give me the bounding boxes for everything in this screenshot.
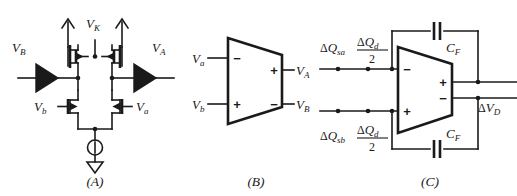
label-delta-qsb: ΔQsb	[320, 128, 346, 145]
label-va-gate: Va	[136, 99, 149, 116]
bottom-input-line	[320, 109, 398, 114]
label-vb-output-b: VB	[296, 97, 310, 114]
label-cf-bottom: CF	[446, 126, 461, 143]
input-sign-plus-c: +	[403, 104, 411, 119]
label-cf-top: CF	[446, 40, 461, 57]
label-vb-gate: Vb	[34, 99, 47, 116]
label-va-output: VA	[152, 40, 166, 57]
buffer-triangle-right	[134, 64, 174, 92]
fraction-delta-qd-over-2-bottom: ΔQd 2	[357, 122, 388, 154]
input-sign-minus: −	[233, 51, 241, 66]
nmos-transistor-left	[58, 90, 78, 129]
caption-a: (A)	[86, 174, 104, 189]
figure-container: VK VB VA	[0, 0, 517, 196]
fraction-denominator-top: 2	[369, 52, 375, 66]
supply-rail-left	[62, 19, 74, 47]
buffer-triangle-left	[18, 64, 58, 92]
amplifier-body-c	[398, 47, 452, 133]
output-sign-plus: +	[270, 63, 278, 78]
panel-b-amplifier-symbol: − Va + Vb + VA − VB (B)	[190, 0, 320, 196]
label-va-input: Va	[192, 51, 205, 68]
vk-gate-node	[93, 40, 98, 59]
supply-rail-right	[116, 19, 128, 47]
fraction-numerator-bottom: ΔQd	[357, 122, 379, 139]
output-sign-plus-c: +	[439, 75, 447, 90]
input-sign-plus: +	[233, 97, 241, 112]
pmos-transistor-right	[102, 45, 122, 78]
output-sign-minus-c: −	[439, 91, 447, 106]
label-delta-vd: ΔVD	[478, 100, 501, 117]
label-va-output-b: VA	[296, 63, 310, 80]
label-delta-qsa: ΔQsa	[320, 40, 346, 57]
pmos-transistor-left	[68, 45, 88, 78]
fraction-delta-qd-over-2-top: ΔQd 2	[357, 34, 388, 66]
caption-c: (C)	[421, 174, 440, 189]
panel-c-charge-amplifier: − + CF	[320, 0, 517, 196]
caption-b: (B)	[247, 174, 265, 189]
nmos-transistor-right	[112, 90, 132, 129]
right-output-node	[110, 76, 134, 81]
top-input-line	[320, 67, 398, 72]
input-sign-minus-c: −	[403, 62, 411, 77]
output-sign-minus: −	[270, 97, 278, 112]
left-output-node	[58, 76, 80, 81]
label-vb-input-b: Vb	[192, 97, 205, 114]
label-vb-input: VB	[12, 40, 26, 57]
fraction-numerator-top: ΔQd	[357, 34, 379, 51]
ground-symbol	[87, 162, 103, 173]
fraction-denominator-bottom: 2	[369, 140, 375, 154]
label-vk: VK	[86, 16, 101, 33]
tail-node	[78, 127, 112, 140]
panel-a-transistor-schematic: VK VB VA	[0, 0, 190, 196]
current-source	[88, 140, 103, 162]
